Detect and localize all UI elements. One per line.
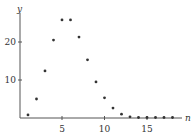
data-point bbox=[52, 39, 55, 42]
data-point bbox=[35, 98, 38, 101]
data-point bbox=[146, 116, 149, 119]
axes: y n bbox=[16, 4, 191, 123]
data-point bbox=[120, 113, 123, 116]
data-points bbox=[27, 19, 174, 119]
data-point bbox=[154, 116, 157, 119]
data-point bbox=[61, 19, 64, 22]
data-point bbox=[137, 116, 140, 119]
data-point bbox=[112, 107, 115, 110]
data-point bbox=[27, 114, 30, 117]
data-point bbox=[171, 116, 174, 119]
data-point bbox=[129, 115, 132, 118]
x-axis-label: n bbox=[185, 113, 191, 123]
y-axis-label: y bbox=[16, 4, 23, 14]
data-point bbox=[103, 96, 106, 99]
data-point bbox=[78, 36, 81, 39]
data-point bbox=[44, 69, 47, 72]
y-tick-label: 20 bbox=[5, 37, 17, 47]
data-point bbox=[163, 116, 166, 119]
data-point bbox=[69, 19, 72, 22]
data-point bbox=[86, 58, 89, 61]
ticks: 510151020 bbox=[5, 37, 153, 134]
data-point bbox=[95, 81, 98, 84]
scatter-chart: y n 510151020 bbox=[0, 0, 196, 137]
x-tick-label: 15 bbox=[141, 124, 153, 134]
x-tick-label: 5 bbox=[59, 124, 65, 134]
y-tick-label: 10 bbox=[5, 75, 17, 85]
x-tick-label: 10 bbox=[99, 124, 111, 134]
